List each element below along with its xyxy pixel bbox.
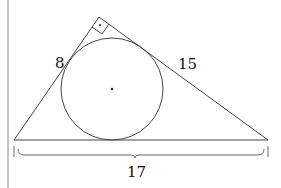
diagram-canvas: 8 15 17	[0, 0, 281, 188]
triangle	[14, 17, 268, 140]
label-hypotenuse: 17	[127, 163, 146, 181]
label-left-leg: 8	[55, 54, 65, 72]
hypotenuse-brace	[18, 149, 264, 158]
incircle-center	[111, 88, 113, 90]
right-angle-dot	[99, 24, 101, 26]
label-right-leg: 15	[178, 55, 197, 73]
